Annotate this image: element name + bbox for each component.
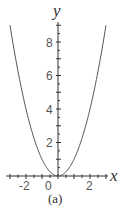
y-axis-label: y [51,1,61,20]
y-axis [56,22,61,176]
figure-caption: (a) [48,191,62,206]
y-tick-label-6: 6 [46,69,53,83]
x-tick-label-neg2: -2 [19,179,30,193]
y-tick-label-8: 8 [46,36,53,50]
y-tick-label-4: 4 [46,103,53,117]
parabola-chart: y x 8 6 4 2 -2 0 2 (a) [0,0,121,208]
y-tick-label-2: 2 [46,136,53,150]
x-axis-label: x [109,166,118,185]
x-tick-label-2: 2 [86,179,93,193]
